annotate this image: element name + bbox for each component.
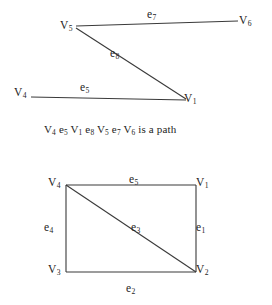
caption-token-V4: V4	[44, 123, 56, 135]
edge-line-e5-top	[31, 97, 186, 100]
vertex-label-v4-bottom: V4	[48, 177, 61, 189]
caption-token-V5: V5	[97, 123, 109, 135]
edge-line-e7	[76, 21, 238, 26]
vertex-label-v2-bottom: V2	[196, 264, 209, 276]
vertex-label-v3-bottom: V3	[48, 264, 61, 276]
caption-trailing-text: is a path	[138, 123, 176, 135]
edge-label-e8: e8	[110, 48, 119, 60]
vertex-label-v1-top: V1	[184, 93, 197, 105]
edge-label-e4: e4	[44, 222, 53, 234]
graph-theory-figure: V5 V6 V4 V1 e7 e8 e5 V4 e5 V1 e8 V5 e7 V…	[0, 0, 272, 305]
caption-token-e7: e7	[112, 123, 121, 135]
caption-token-V1: V1	[70, 123, 82, 135]
caption-token-e5: e5	[59, 123, 68, 135]
edge-line-e8	[76, 28, 186, 99]
vertex-label-v4-top: V4	[14, 87, 27, 99]
edge-label-e2: e2	[126, 283, 135, 295]
edge-label-e3: e3	[131, 222, 140, 234]
vertex-label-v5-top: V5	[60, 20, 73, 32]
caption-token-e8: e8	[85, 123, 94, 135]
vertex-label-v6-top: V6	[239, 15, 252, 27]
vertex-label-v1-bottom: V1	[196, 177, 209, 189]
edge-label-e1: e1	[196, 222, 205, 234]
edge-label-e7: e7	[147, 9, 156, 21]
path-caption: V4 e5 V1 e8 V5 e7 V6 is a path	[44, 123, 176, 135]
edge-label-e5-top: e5	[80, 82, 89, 94]
figure-lines	[0, 0, 272, 305]
edge-label-e5-bottom: e5	[129, 174, 138, 186]
caption-token-V6: V6	[123, 123, 135, 135]
